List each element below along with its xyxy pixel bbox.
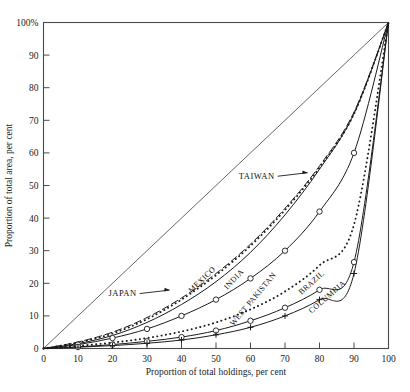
x-tick-label-60: 60 (246, 354, 256, 364)
marker-brazil-90 (351, 259, 356, 264)
marker-brazil-60 (248, 318, 253, 323)
x-tick-label-30: 30 (142, 354, 152, 364)
y-tick-label-100: 100% (16, 18, 38, 28)
y-tick-label-0: 0 (34, 344, 39, 354)
y-tick-label-40: 40 (29, 214, 39, 224)
marker-columbia-60 (248, 324, 254, 330)
y-tick-label-10: 10 (29, 311, 39, 321)
y-tick-label-30: 30 (29, 246, 39, 256)
y-tick-label-90: 90 (29, 51, 39, 61)
x-tick-label-100: 100 (381, 354, 396, 364)
y-axis-title: Proportion of total area, per cent (4, 123, 14, 247)
x-tick-label-0: 0 (41, 354, 46, 364)
x-tick-label-80: 80 (315, 354, 325, 364)
x-tick-label-20: 20 (108, 354, 118, 364)
marker-india-20 (110, 335, 115, 340)
lorenz-curve-chart: 102030405060708090100%001020304050607080… (0, 0, 410, 392)
x-tick-label-40: 40 (177, 354, 187, 364)
chart-canvas: 102030405060708090100%001020304050607080… (0, 0, 410, 392)
x-tick-label-10: 10 (73, 354, 83, 364)
marker-india-90 (351, 150, 356, 155)
y-tick-label-80: 80 (29, 83, 39, 93)
marker-india-30 (144, 326, 149, 331)
curve-label-mexico: MEXICO (187, 265, 218, 295)
y-tick-label-20: 20 (29, 279, 39, 289)
marker-columbia-70 (282, 313, 288, 319)
annotation-label-japan: JAPAN (108, 288, 136, 298)
x-tick-label-50: 50 (211, 354, 221, 364)
marker-columbia-90 (351, 271, 357, 277)
marker-india-50 (213, 297, 218, 302)
y-tick-label-70: 70 (29, 116, 39, 126)
marker-india-60 (248, 276, 253, 281)
x-axis-title: Proportion of total holdings, per cent (146, 367, 287, 377)
y-tick-label-60: 60 (29, 148, 39, 158)
annotation-label-taiwan: TAIWAN (239, 171, 275, 181)
marker-india-40 (179, 313, 184, 318)
marker-brazil-70 (282, 305, 287, 310)
curve-label-india: INDIA (222, 267, 245, 291)
x-tick-label-90: 90 (349, 354, 359, 364)
marker-india-80 (317, 209, 322, 214)
y-tick-label-50: 50 (29, 181, 39, 191)
marker-india-70 (282, 248, 287, 253)
marker-brazil-80 (317, 287, 322, 292)
x-tick-label-70: 70 (280, 354, 290, 364)
curve-label-brazil: BRAZIL (297, 269, 326, 297)
